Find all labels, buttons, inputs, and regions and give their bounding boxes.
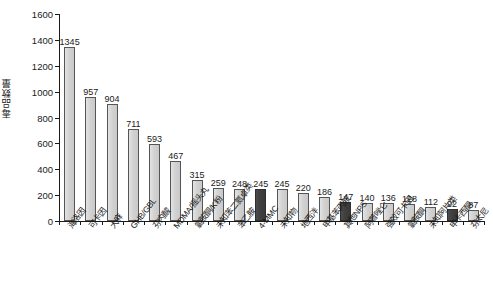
x-tick-mark — [80, 221, 81, 225]
y-tick-label: 800 — [37, 112, 53, 123]
x-tick-mark — [442, 221, 443, 225]
y-tick-mark — [55, 92, 59, 93]
bar-value-label: 186 — [317, 187, 332, 197]
bar-value-label: 467 — [168, 151, 183, 161]
x-tick-mark — [399, 221, 400, 225]
y-tick-label: 1600 — [32, 9, 53, 20]
y-tick-mark — [55, 14, 59, 15]
y-tick-label: 200 — [37, 190, 53, 201]
x-tick-mark — [357, 221, 358, 225]
bar: 1345 — [64, 47, 75, 221]
bar: 711 — [128, 129, 139, 221]
bar: 904 — [107, 104, 118, 221]
x-tick-mark — [123, 221, 124, 225]
bar-chart: 毒品数量 02004006008001000120014001600 13459… — [0, 0, 493, 297]
x-tick-mark — [484, 221, 485, 225]
y-tick-mark — [55, 195, 59, 196]
x-tick-mark — [229, 221, 230, 225]
bar-value-label: 904 — [105, 94, 120, 104]
x-tick-mark — [335, 221, 336, 225]
x-tick-mark — [102, 221, 103, 225]
y-tick-mark — [55, 66, 59, 67]
bar-value-label: 259 — [211, 178, 226, 188]
x-tick-mark — [250, 221, 251, 225]
y-tick-mark — [55, 118, 59, 119]
x-tick-mark — [378, 221, 379, 225]
y-tick-mark — [55, 40, 59, 41]
y-tick-label: 600 — [37, 138, 53, 149]
x-tick-mark — [272, 221, 273, 225]
x-tick-mark — [144, 221, 145, 225]
bar-value-label: 711 — [126, 119, 140, 129]
x-tick-mark — [314, 221, 315, 225]
x-tick-mark — [208, 221, 209, 225]
bar-value-label: 220 — [296, 183, 311, 193]
bar-value-label: 315 — [190, 170, 205, 180]
x-tick-mark — [187, 221, 188, 225]
y-tick-label: 1000 — [32, 86, 53, 97]
x-tick-mark — [59, 221, 60, 225]
bar-value-label: 245 — [275, 179, 290, 189]
bar-value-label: 112 — [424, 197, 438, 207]
x-tick-mark — [463, 221, 464, 225]
bar-value-label: 245 — [253, 179, 268, 189]
bar: 957 — [85, 97, 96, 221]
y-axis-title: 毒品数量 — [2, 78, 18, 118]
x-tick-mark — [165, 221, 166, 225]
plot-area: 02004006008001000120014001600 1345957904… — [59, 14, 484, 221]
y-tick-label: 1200 — [32, 60, 53, 71]
x-tick-mark — [293, 221, 294, 225]
bar-value-label: 593 — [147, 134, 162, 144]
y-tick-mark — [55, 143, 59, 144]
x-tick-mark — [420, 221, 421, 225]
y-tick-label: 1400 — [32, 34, 53, 45]
y-tick-label: 0 — [48, 216, 53, 227]
y-tick-mark — [55, 169, 59, 170]
y-tick-label: 400 — [37, 164, 53, 175]
bar-value-label: 1345 — [60, 37, 80, 47]
bar-value-label: 957 — [83, 87, 98, 97]
